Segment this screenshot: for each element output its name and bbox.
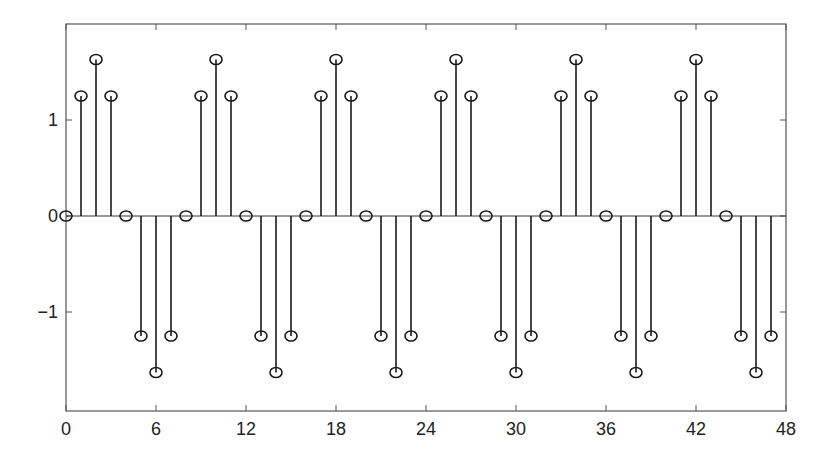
plot-area [66, 24, 786, 411]
y-tick-label: 0 [48, 206, 58, 226]
x-tick-label: 0 [61, 419, 71, 439]
y-tick-label: 1 [48, 110, 58, 130]
x-tick-label: 42 [686, 419, 706, 439]
x-tick-label: 36 [596, 419, 616, 439]
x-tick-label: 30 [506, 419, 526, 439]
x-tick-label: 48 [776, 419, 796, 439]
y-tick-label: −1 [37, 302, 58, 322]
x-tick-label: 24 [416, 419, 436, 439]
x-tick-label: 6 [151, 419, 161, 439]
stem-plot: 0612182430364248 −101 [0, 0, 839, 459]
x-tick-label: 12 [236, 419, 256, 439]
x-tick-label: 18 [326, 419, 346, 439]
